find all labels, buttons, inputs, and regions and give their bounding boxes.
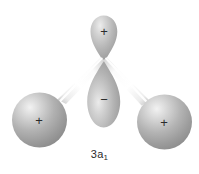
figure-caption: 3a1 [0, 148, 199, 162]
caption-main-text: 3a [91, 148, 104, 160]
top-lobe-sign-plus: + [100, 24, 108, 39]
left-sphere-sign-plus: + [35, 113, 43, 128]
caption-subscript-text: 1 [103, 153, 108, 162]
right-sphere-sign-plus: + [160, 115, 168, 130]
molecular-orbital-figure: + − + + 3a1 [0, 0, 199, 174]
bottom-lobe-sign-minus: − [100, 92, 108, 107]
